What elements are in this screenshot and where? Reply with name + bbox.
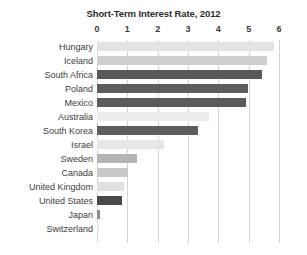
bar-row: South Africa: [0, 68, 307, 82]
bar-row: Canada: [0, 166, 307, 180]
bar-row: Sweden: [0, 152, 307, 166]
category-label-japan: Japan: [0, 208, 93, 222]
bar-rows: HungaryIcelandSouth AfricaPolandMexicoAu…: [0, 40, 307, 243]
category-label-mexico: Mexico: [0, 96, 93, 110]
bar-row: United States: [0, 194, 307, 208]
bar-poland: [97, 84, 248, 93]
bar-row: Australia: [0, 110, 307, 124]
bar-hungary: [97, 42, 274, 51]
chart-title: Short-Term Interest Rate, 2012: [0, 8, 307, 19]
x-tick-label-3: 3: [185, 24, 190, 34]
category-label-poland: Poland: [0, 82, 93, 96]
bar-row: South Korea: [0, 124, 307, 138]
bar-row: Mexico: [0, 96, 307, 110]
category-label-south-korea: South Korea: [0, 124, 93, 138]
category-label-australia: Australia: [0, 110, 93, 124]
bar-united-states: [97, 196, 122, 205]
bar-iceland: [97, 56, 267, 65]
category-label-sweden: Sweden: [0, 152, 93, 166]
bar-sweden: [97, 154, 137, 163]
category-label-switzerland: Switzerland: [0, 222, 93, 236]
x-tick-label-0: 0: [94, 24, 99, 34]
bar-row: Switzerland: [0, 222, 307, 236]
bar-south-africa: [97, 70, 262, 79]
category-label-united-kingdom: United Kingdom: [0, 180, 93, 194]
bar-row: Iceland: [0, 54, 307, 68]
x-tick-label-1: 1: [125, 24, 130, 34]
category-label-united-states: United States: [0, 194, 93, 208]
category-label-canada: Canada: [0, 166, 93, 180]
x-tick-label-6: 6: [276, 24, 281, 34]
chart-container: Short-Term Interest Rate, 2012 0123456 H…: [0, 0, 307, 255]
bar-united-kingdom: [97, 182, 124, 191]
category-label-south-africa: South Africa: [0, 68, 93, 82]
x-tick-label-5: 5: [246, 24, 251, 34]
bar-row: Hungary: [0, 40, 307, 54]
category-label-hungary: Hungary: [0, 40, 93, 54]
bar-row: United Kingdom: [0, 180, 307, 194]
category-label-israel: Israel: [0, 138, 93, 152]
bar-row: Japan: [0, 208, 307, 222]
bar-canada: [97, 168, 128, 177]
bar-row: Israel: [0, 138, 307, 152]
bar-mexico: [97, 98, 246, 107]
bar-south-korea: [97, 126, 198, 135]
x-axis-tick-labels: 0123456: [0, 24, 307, 38]
x-tick-label-4: 4: [216, 24, 221, 34]
bar-japan: [97, 210, 100, 219]
category-label-iceland: Iceland: [0, 54, 93, 68]
bar-switzerland: [97, 224, 99, 233]
bar-australia: [97, 112, 209, 121]
x-tick-label-2: 2: [155, 24, 160, 34]
bar-row: Poland: [0, 82, 307, 96]
bar-israel: [97, 140, 164, 149]
